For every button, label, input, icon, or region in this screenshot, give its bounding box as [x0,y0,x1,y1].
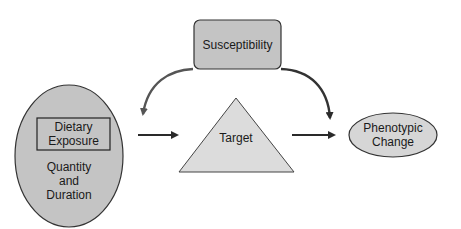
susceptibility-label: Susceptibility [194,38,281,52]
quantity-duration-label: Quantity and Duration [29,160,109,202]
phenotypic-label: Phenotypic [349,121,437,135]
duration-label: Duration [29,188,109,202]
curved-arrow-susceptibility-left [143,69,193,114]
quantity-label: Quantity [29,160,109,174]
and-label: and [29,174,109,188]
phenotypic-change-label: Phenotypic Change [349,121,437,149]
dietary-exposure-label: Dietary Exposure [37,120,110,148]
exposure-ellipse [15,85,123,227]
curved-arrow-susceptibility-right [281,69,330,118]
change-label: Change [349,135,437,149]
target-label: Target [196,131,276,145]
exposure-label: Exposure [37,134,110,148]
dietary-label: Dietary [37,120,110,134]
